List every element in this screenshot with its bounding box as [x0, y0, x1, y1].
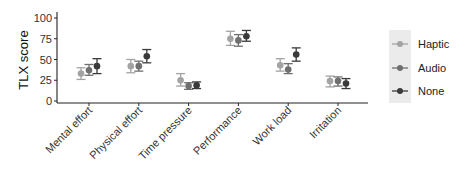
x-axis: Mental effortPhysical effortTime pressur… — [43, 103, 368, 162]
x-tick-label: Work load — [250, 104, 293, 147]
data-point — [144, 53, 151, 60]
y-axis-title: TLX score — [16, 30, 31, 89]
y-axis: 0255075100 — [34, 12, 57, 107]
y-tick-label: 0 — [46, 95, 52, 107]
data-point — [335, 78, 342, 85]
data-point — [227, 35, 234, 42]
data-point — [86, 67, 93, 74]
legend: HapticAudioNone — [389, 30, 450, 103]
data-point — [285, 66, 292, 73]
data-point — [185, 83, 192, 90]
x-tick-label: Mental effort — [43, 104, 95, 156]
y-tick-label: 75 — [40, 33, 52, 45]
data-point — [177, 77, 184, 84]
data-point — [277, 62, 284, 69]
x-tick-label: Time pressure — [136, 104, 194, 162]
y-tick-label: 50 — [40, 54, 52, 66]
y-axis-label: TLX score — [16, 30, 31, 89]
data-point — [343, 80, 350, 87]
legend-label: Haptic — [418, 38, 450, 50]
legend-label: Audio — [418, 62, 446, 74]
y-tick-label: 25 — [40, 74, 52, 86]
y-tick-label: 100 — [34, 12, 52, 24]
data-point — [235, 37, 242, 44]
x-tick-label: Performance — [191, 104, 244, 157]
legend-label: None — [418, 85, 444, 97]
tlx-chart: TLX score 0255075100 Mental effortPhysic… — [0, 0, 466, 174]
data-point — [128, 63, 135, 70]
data-point — [94, 63, 101, 70]
data-point — [293, 51, 300, 58]
series-audio — [85, 35, 343, 90]
data-point — [136, 63, 143, 70]
x-tick-label: Irritation — [307, 104, 344, 141]
data-point — [78, 70, 85, 77]
data-points — [77, 30, 351, 89]
data-point — [193, 82, 200, 89]
data-point — [243, 33, 250, 40]
data-point — [327, 78, 334, 85]
